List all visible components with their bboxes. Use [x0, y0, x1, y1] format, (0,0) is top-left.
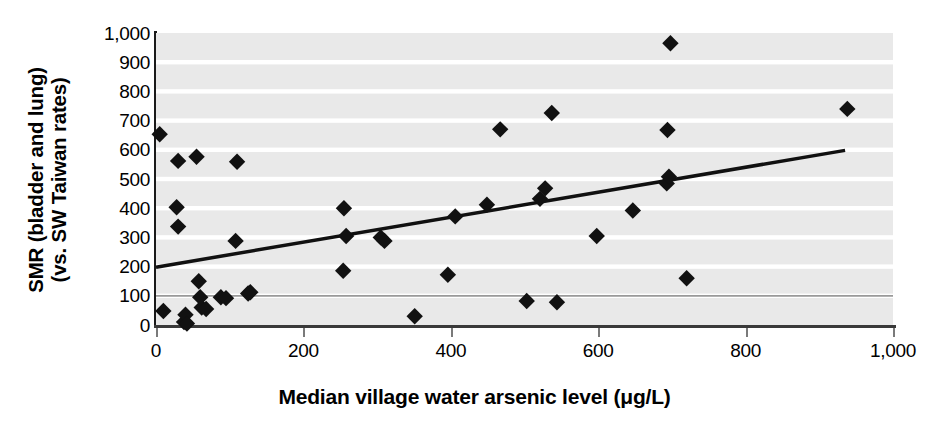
y-tick-label: 600 [94, 140, 150, 159]
gridline-horizontal [156, 177, 893, 181]
plot-area [156, 33, 893, 325]
gridline-horizontal [156, 148, 893, 152]
x-tick-label: 400 [435, 340, 466, 362]
gridline-horizontal [156, 235, 893, 239]
y-tick-label: 700 [94, 111, 150, 130]
x-tick-label: 0 [151, 340, 161, 362]
y-tick-label: 300 [94, 228, 150, 247]
x-tick-label: 1,000 [870, 340, 916, 362]
y-axis-tick-labels: 01002003004005006007008009001,000 [92, 0, 150, 360]
x-tick-label: 600 [583, 340, 614, 362]
x-tick-mark [598, 328, 600, 337]
gridline-horizontal [156, 264, 893, 268]
x-tick-label: 200 [288, 340, 319, 362]
y-tick-label: 100 [94, 286, 150, 305]
y-tick-label: 400 [94, 199, 150, 218]
y-tick-label: 500 [94, 170, 150, 189]
y-axis-title-line1: SMR (bladder and lung) [25, 67, 48, 293]
x-axis-title: Median village water arsenic level (μg/L… [0, 385, 949, 409]
x-tick-mark [303, 328, 305, 337]
y-tick-label: 200 [94, 257, 150, 276]
x-axis-line [154, 325, 896, 328]
gridline-horizontal [156, 89, 893, 93]
x-tick-mark [156, 328, 158, 337]
x-tick-mark [746, 328, 748, 337]
x-tick-label: 800 [730, 340, 761, 362]
gridline-horizontal [156, 118, 893, 122]
y-axis-title: SMR (bladder and lung) (vs. SW Taiwan ra… [0, 0, 96, 360]
plot-svg [156, 33, 893, 325]
scatter-chart-figure: SMR (bladder and lung) (vs. SW Taiwan ra… [0, 0, 949, 438]
y-tick-label: 0 [94, 316, 150, 335]
y-tick-label: 800 [94, 82, 150, 101]
gridline-horizontal [156, 206, 893, 210]
y-tick-label: 1,000 [94, 24, 150, 43]
gridline-horizontal [156, 60, 893, 64]
x-tick-mark [451, 328, 453, 337]
y-axis-title-line2: (vs. SW Taiwan rates) [48, 67, 71, 293]
y-tick-label: 900 [94, 53, 150, 72]
x-tick-mark [893, 328, 895, 337]
